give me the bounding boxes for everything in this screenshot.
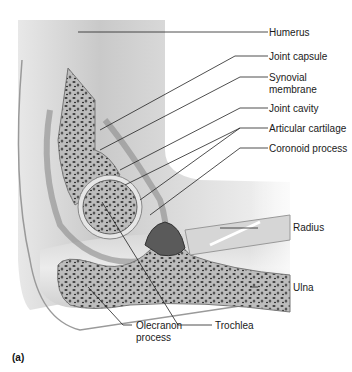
label-olecranon-line2: process [136, 332, 171, 344]
label-synovial-line1: Synovial [269, 72, 307, 84]
label-synovial-line2: membrane [269, 84, 317, 96]
panel-label: (a) [12, 352, 24, 363]
label-trochlea: Trochlea [215, 320, 254, 332]
label-radius: Radius [293, 222, 324, 234]
label-humerus: Humerus [269, 27, 310, 39]
label-articular-cartilage: Articular cartilage [269, 123, 346, 135]
label-joint-cavity: Joint cavity [269, 103, 318, 115]
label-coronoid-process: Coronoid process [269, 143, 347, 155]
label-ulna: Ulna [293, 282, 314, 294]
label-joint-capsule: Joint capsule [269, 51, 327, 63]
label-olecranon-line1: Olecranon [136, 320, 182, 332]
